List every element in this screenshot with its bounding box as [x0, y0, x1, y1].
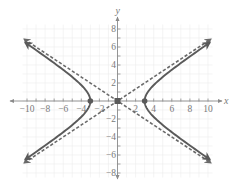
center-point: [115, 98, 121, 104]
x-tick-label: −8: [40, 104, 50, 114]
x-tick-label: 4: [151, 104, 156, 114]
x-tick-label: −10: [20, 104, 35, 114]
x-tick-label: −6: [58, 104, 68, 114]
y-tick-label: 6: [111, 42, 116, 52]
y-tick-label: −4: [106, 132, 116, 142]
y-tick-label: 8: [111, 24, 116, 34]
y-tick-label: −8: [106, 168, 116, 178]
y-tick-label: −6: [106, 150, 116, 160]
vertex-right-point: [142, 98, 148, 104]
x-axis-label: x: [223, 95, 229, 106]
x-tick-label: 8: [188, 104, 193, 114]
y-tick-label: 4: [111, 60, 116, 70]
vertex-left-point: [88, 98, 94, 104]
x-tick-label: 10: [203, 104, 213, 114]
y-tick-label: −2: [106, 114, 116, 124]
x-tick-label: 6: [169, 104, 174, 114]
y-axis-label: y: [115, 5, 121, 16]
hyperbola-chart: −10−8−6−4−2246810−8−6−4−22468 x y: [0, 0, 231, 181]
y-tick-label: 2: [111, 78, 116, 88]
